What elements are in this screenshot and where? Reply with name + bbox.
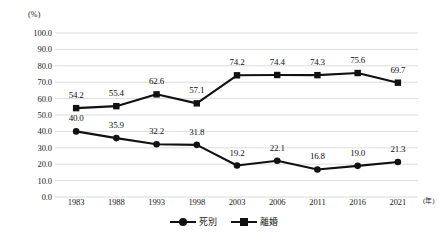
legend-square-marker-icon [231, 217, 257, 227]
data-point-square [274, 72, 280, 78]
data-value-label: 62.6 [149, 77, 164, 86]
data-value-label: 16.8 [310, 152, 325, 161]
data-point-circle [234, 162, 241, 169]
data-value-label: 22.1 [270, 144, 285, 153]
data-point-circle [395, 159, 402, 166]
data-value-label: 54.2 [69, 91, 84, 100]
data-value-label: 74.2 [230, 58, 245, 67]
data-point-square [354, 70, 360, 76]
data-point-square [73, 105, 79, 111]
data-point-circle [193, 142, 200, 149]
x-axis-tick-label: 1983 [68, 198, 85, 207]
data-value-label: 69.7 [390, 66, 405, 75]
data-value-label: 35.9 [109, 121, 124, 130]
data-value-label: 74.3 [310, 58, 325, 67]
data-value-label: 32.2 [149, 127, 164, 136]
x-axis-tick-label: 2006 [269, 198, 286, 207]
data-point-circle [274, 157, 281, 164]
data-point-circle [314, 166, 321, 173]
legend-item-2[interactable]: 離婚 [231, 217, 278, 227]
x-axis-tick-label: 2003 [229, 198, 246, 207]
data-point-square [153, 91, 159, 97]
data-point-square [395, 79, 401, 85]
data-value-label: 55.4 [109, 89, 124, 98]
data-value-label: 31.8 [189, 128, 204, 137]
data-point-square [314, 72, 320, 78]
x-axis-tick-label: 2021 [390, 198, 407, 207]
x-axis-tick-label: 1993 [148, 198, 165, 207]
data-value-label: 19.0 [350, 149, 365, 158]
data-value-label: 21.3 [390, 145, 405, 154]
chart-legend: 死別離婚 [0, 217, 447, 227]
data-point-circle [113, 135, 120, 142]
data-point-circle [73, 128, 80, 135]
line-chart: (%) (年) 0.010.020.030.040.050.060.070.08… [0, 0, 447, 242]
x-axis-tick-label: 1998 [188, 198, 205, 207]
data-value-label: 57.1 [189, 86, 204, 95]
legend-circle-marker-icon [170, 217, 196, 227]
x-axis-tick-label: 2016 [349, 198, 366, 207]
data-point-square [234, 72, 240, 78]
data-point-circle [153, 141, 160, 148]
legend-item-label: 死別 [199, 218, 217, 227]
x-axis-tick-labels: 198319881993199820032006201120162021 [0, 196, 447, 210]
data-point-square [194, 100, 200, 106]
data-value-label: 74.4 [270, 58, 285, 67]
data-point-square [113, 103, 119, 109]
data-value-label: 40.0 [69, 114, 84, 123]
legend-item-label: 離婚 [260, 218, 278, 227]
x-axis-tick-label: 2011 [309, 198, 325, 207]
data-value-label: 75.6 [350, 56, 365, 65]
data-value-label: 19.2 [230, 149, 245, 158]
x-axis-tick-label: 1988 [108, 198, 125, 207]
data-point-circle [354, 163, 361, 170]
legend-item-1[interactable]: 死別 [170, 217, 217, 227]
